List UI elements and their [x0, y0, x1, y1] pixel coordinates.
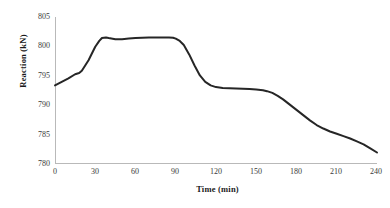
x-tick-label: 120 — [204, 167, 228, 176]
x-tick-label: 60 — [123, 167, 147, 176]
x-tick-label: 0 — [43, 167, 67, 176]
x-tick-label: 30 — [83, 167, 107, 176]
x-tick-label: 240 — [364, 167, 388, 176]
chart-figure: Reaction (kN) 805 800 795 790 785 780 0 … — [0, 0, 390, 208]
series-line-reaction — [55, 37, 377, 152]
x-tick-label: 180 — [284, 167, 308, 176]
x-tick-label: 150 — [244, 167, 268, 176]
plot-area — [0, 0, 390, 208]
x-axis-title: Time (min) — [55, 184, 380, 194]
x-tick-label: 90 — [163, 167, 187, 176]
x-tick-label: 210 — [324, 167, 348, 176]
